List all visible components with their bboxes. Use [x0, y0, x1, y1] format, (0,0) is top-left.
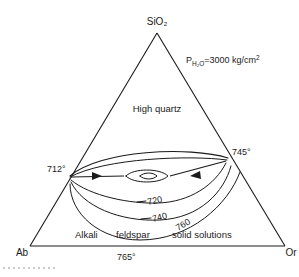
triangle-left-edge [30, 33, 157, 246]
isotherm-label-740: 740 [151, 211, 168, 224]
leader-740 [141, 218, 151, 219]
pressure-subscript: H₂O [192, 60, 204, 67]
field-label-feldspar: feldspar [116, 229, 150, 240]
minimum-contour-inner [140, 173, 157, 179]
temperature-label-765: 765° [117, 252, 136, 262]
corner-label-ab: Ab [16, 247, 29, 258]
arrow-head-from-712 [92, 172, 102, 180]
minimum-contour-outer [126, 170, 168, 182]
temperature-label-745: 745° [232, 147, 251, 157]
apex-label-sio2: SiO₂ [147, 16, 168, 27]
cotectic-upper-curve [70, 152, 228, 176]
arrow-head-from-745 [190, 171, 201, 179]
thermal-minimum-contours [126, 170, 168, 182]
pressure-units-text: kg/cm [232, 55, 256, 65]
field-label-alkali: Alkali [75, 229, 98, 240]
leader-720 [137, 201, 146, 202]
field-label-high-quartz: High quartz [133, 103, 182, 114]
pressure-annotation: PH₂O=3000 kg/cm2 [186, 54, 260, 67]
ternary-phase-diagram: SiO₂ Ab Or PH₂O=3000 kg/cm2 High quartz … [0, 0, 299, 277]
quartz-feldspar-cotectic [70, 152, 228, 176]
pressure-value: =3000 [204, 55, 229, 65]
isotherm-label-720: 720 [146, 194, 163, 207]
pressure-units-superscript: 2 [256, 54, 260, 61]
corner-label-or: Or [285, 247, 297, 258]
temperature-label-712: 712° [47, 164, 66, 174]
